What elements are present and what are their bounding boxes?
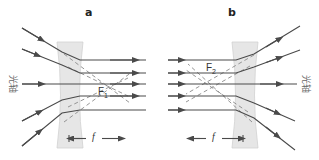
optical-axis-label-a: 光轴 xyxy=(7,75,20,93)
optical-axis-label-b: 光轴 xyxy=(300,75,313,93)
focal-point-subscript: 2 xyxy=(212,68,216,75)
panel-b xyxy=(168,26,300,150)
focal-point-label-f2: F2 xyxy=(206,62,216,75)
panel-label-b: b xyxy=(228,6,236,19)
concave-lens-ray-diagram xyxy=(0,0,319,160)
focal-point-subscript: 1 xyxy=(104,92,108,99)
panel-a xyxy=(22,28,146,148)
rays-a xyxy=(22,28,146,146)
panel-label-a: a xyxy=(85,6,92,19)
focal-length-label-b: f xyxy=(212,131,215,142)
focal-length-label-a: f xyxy=(92,131,95,142)
concave-lens-b xyxy=(232,42,258,148)
focal-point-label-f1: F1 xyxy=(98,86,108,99)
